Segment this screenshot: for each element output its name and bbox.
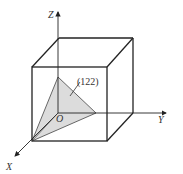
cube-diagram: Z Y X O (122) [0, 0, 183, 174]
y-axis-label: Y [158, 114, 165, 125]
x-axis-label: X [5, 161, 13, 172]
plane-label: (122) [77, 76, 99, 88]
z-axis-label: Z [48, 9, 54, 20]
origin-label: O [56, 113, 63, 124]
